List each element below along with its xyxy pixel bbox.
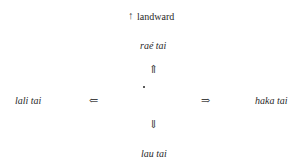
right-direction-label: haka tai — [255, 96, 288, 106]
down-direction-label: lau tai — [141, 149, 167, 159]
center-point — [143, 86, 145, 88]
left-direction-label: lali tai — [15, 96, 41, 106]
double-left-arrow-icon: ⇐ — [89, 95, 98, 106]
double-right-arrow-icon: ⇒ — [201, 95, 210, 106]
up-direction-label: raé tai — [140, 41, 166, 51]
double-up-arrow-icon: ⇑ — [149, 64, 158, 75]
landward-arrow-icon: ↑ — [128, 10, 134, 21]
double-down-arrow-icon: ⇓ — [149, 119, 158, 130]
landward-label: landward — [137, 12, 174, 22]
